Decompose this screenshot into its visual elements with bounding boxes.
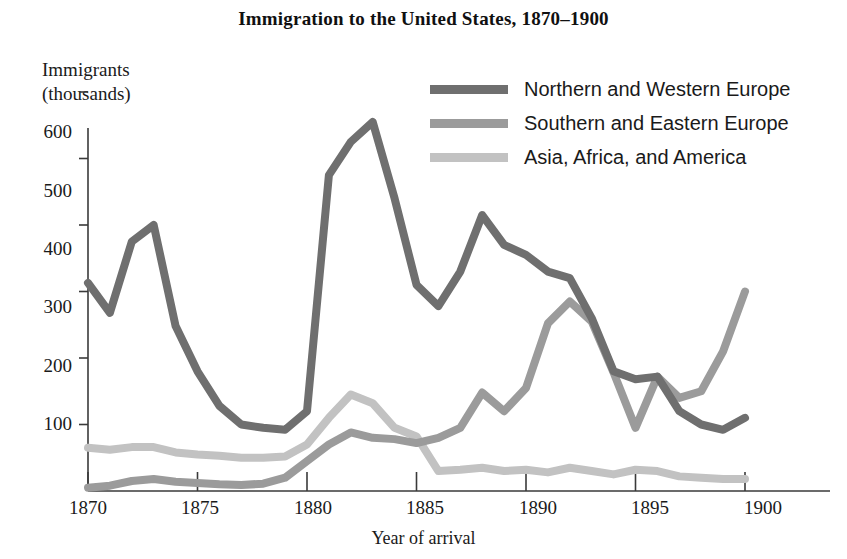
data-series-group	[88, 122, 745, 488]
y-axis-ticks	[79, 92, 88, 425]
series-line-northern-and-western-europe	[88, 122, 745, 430]
chart-container: Immigration to the United States, 1870–1…	[0, 0, 847, 559]
plot-area	[0, 0, 847, 559]
axis-lines	[88, 128, 830, 491]
series-line-southern-and-eastern-europe	[88, 292, 745, 488]
